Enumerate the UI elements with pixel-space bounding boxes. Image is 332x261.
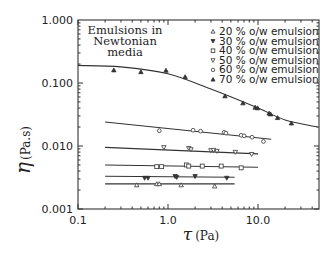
marker-triangle-filled: [139, 70, 143, 74]
marker-triangle-down-open: [211, 59, 215, 63]
marker-circle-open: [250, 135, 254, 139]
marker-triangle-filled: [211, 78, 215, 82]
marker-triangle-filled: [183, 75, 187, 79]
marker-circle-open: [242, 134, 246, 138]
marker-square-open: [200, 164, 204, 168]
marker-square-open: [219, 164, 223, 168]
marker-square-open: [211, 49, 215, 53]
marker-square-open: [160, 165, 164, 169]
fit-line: [105, 122, 271, 139]
x-unit: (Pa): [195, 229, 219, 243]
svg-text:τ(Pa): τ(Pa): [183, 224, 219, 244]
marker-circle-open: [157, 129, 161, 133]
annotation-text: Emulsions inNewtonianmedia: [88, 23, 164, 59]
marker-triangle-down-filled: [146, 176, 150, 180]
marker-triangle-down-open: [249, 152, 253, 156]
tau-symbol: τ: [183, 224, 193, 244]
x-tick-label: 1.0: [159, 214, 177, 227]
chart: 1.0000.1000.0100.0010.11.010.0 Emulsions…: [0, 0, 332, 261]
marker-triangle-down-open: [233, 150, 237, 154]
y-tick-label: 0.010: [42, 140, 74, 153]
y-unit: (Pa.s): [19, 126, 33, 160]
marker-square-open: [239, 166, 243, 170]
fit-line: [105, 176, 235, 177]
marker-triangle-down-open: [162, 146, 166, 150]
svg-text:η(Pa.s): η(Pa.s): [11, 126, 35, 174]
marker-triangle-filled: [164, 68, 168, 72]
fit-line: [105, 165, 258, 167]
legend-entry: 70 % o/w emulsion: [219, 73, 319, 85]
annotation-line: media: [107, 45, 143, 59]
marker-circle-open: [199, 129, 203, 133]
y-axis-label: η(Pa.s): [11, 126, 35, 174]
marker-circle-open: [211, 68, 214, 71]
marker-triangle-open: [157, 182, 161, 186]
marker-square-open: [155, 165, 159, 169]
x-tick-label: 10.0: [246, 214, 271, 227]
marker-triangle-open: [211, 30, 215, 34]
y-tick-label: 0.100: [42, 77, 74, 90]
marker-triangle-open: [212, 184, 216, 188]
x-tick-label: 0.1: [69, 214, 87, 227]
y-tick-label: 1.000: [42, 14, 74, 27]
marker-triangle-filled: [112, 68, 116, 72]
marker-circle-open: [224, 131, 228, 135]
marker-triangle-down-filled: [225, 176, 229, 180]
marker-square-open: [187, 164, 191, 168]
marker-triangle-down-filled: [211, 40, 215, 44]
marker-triangle-down-filled: [193, 175, 197, 179]
x-axis-label: τ(Pa): [183, 224, 219, 244]
eta-symbol: η: [11, 162, 35, 174]
marker-circle-open: [262, 140, 266, 144]
marker-circle-open: [191, 128, 195, 132]
legend: 20 % o/w emulsion30 % o/w emulsion40 % o…: [211, 25, 319, 85]
